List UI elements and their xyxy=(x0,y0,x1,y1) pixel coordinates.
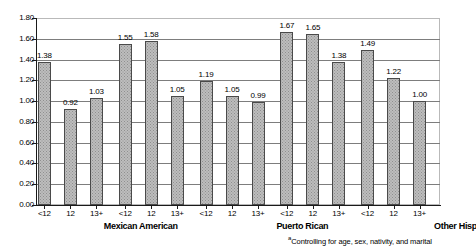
bar xyxy=(280,32,293,205)
bar-chart-figure: 1.801.601.401.201.000.800.600.400.200.00… xyxy=(0,0,476,249)
y-axis-tick-label: 0.80 xyxy=(0,118,34,126)
y-axis-tick-label: 0.60 xyxy=(0,139,34,147)
bar-value-label: 1.58 xyxy=(134,31,168,39)
x-axis-group-label: Puerto Rican xyxy=(276,221,328,231)
y-axis-tick-label: 1.60 xyxy=(0,35,34,43)
bar-value-label: 1.22 xyxy=(377,68,411,76)
bar xyxy=(332,62,345,205)
bar xyxy=(200,81,213,205)
chart-footnote: aControlling for age, sex, nativity, and… xyxy=(288,234,432,246)
footnote-text: Controlling for age, sex, nativity, and … xyxy=(291,237,432,246)
bar-value-label: 0.92 xyxy=(53,99,87,107)
x-axis-group-label: Mexican American xyxy=(104,221,178,231)
y-axis-tick-label: 1.00 xyxy=(0,97,34,105)
bar-value-label: 1.00 xyxy=(403,91,437,99)
bar-value-label: 1.49 xyxy=(351,40,385,48)
y-axis-tick-label: 1.80 xyxy=(0,14,34,22)
bar xyxy=(252,102,265,205)
bar-value-label: 1.03 xyxy=(79,88,113,96)
bar xyxy=(226,96,239,205)
y-axis-tick-label: 1.20 xyxy=(0,76,34,84)
bar-value-label: 1.19 xyxy=(189,71,223,79)
bar-value-label: 1.65 xyxy=(296,24,330,32)
bar-value-label: 1.38 xyxy=(322,52,356,60)
bar xyxy=(64,109,77,205)
x-axis-category-label: 13+ xyxy=(403,209,437,218)
bar xyxy=(38,62,51,205)
bar xyxy=(90,98,103,205)
bar-value-label: 0.99 xyxy=(241,92,275,100)
bar xyxy=(387,78,400,205)
bar xyxy=(361,50,374,205)
bar xyxy=(413,101,426,205)
bar-value-label: 1.05 xyxy=(160,86,194,94)
y-axis-tick-label: 0.40 xyxy=(0,159,34,167)
bar xyxy=(306,34,319,205)
y-axis-tick-label: 0.00 xyxy=(0,201,34,209)
bar xyxy=(145,41,158,205)
bar xyxy=(119,44,132,205)
bar xyxy=(171,96,184,205)
x-axis-group-label: Other Hispanic xyxy=(434,221,476,231)
y-axis-tick-label: 0.20 xyxy=(0,180,34,188)
bar-value-label: 1.38 xyxy=(27,52,61,60)
